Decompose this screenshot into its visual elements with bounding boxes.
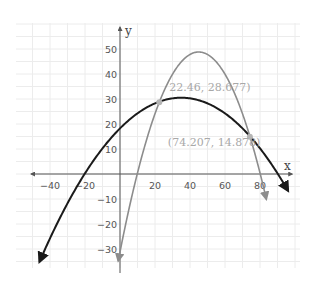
x-axis-label: x xyxy=(284,159,291,173)
y-tick-label: 40 xyxy=(105,69,117,80)
intersection-label: 22.46, 28.677) xyxy=(169,81,250,94)
y-tick-label: −10 xyxy=(97,194,117,205)
y-axis-label: y xyxy=(124,24,132,38)
y-tick-label: 10 xyxy=(105,144,117,155)
intersection-label: (74.207, 14.878) xyxy=(168,136,261,149)
y-tick-label: −30 xyxy=(97,244,117,255)
parabola-chart: −40−2020406080−30−20−101020304050 22.46,… xyxy=(0,0,317,289)
intersection-points: 22.46, 28.677)(74.207, 14.878) xyxy=(156,81,260,148)
x-tick-label: 20 xyxy=(149,180,161,191)
intersection-point xyxy=(156,99,162,105)
y-tick-label: 50 xyxy=(105,44,117,55)
x-tick-label: −40 xyxy=(40,180,60,191)
curves xyxy=(40,52,289,262)
y-tick-label: 20 xyxy=(105,119,117,130)
x-tick-label: 40 xyxy=(184,180,196,191)
y-tick-label: 30 xyxy=(105,94,117,105)
y-tick-label: −20 xyxy=(97,219,117,230)
x-tick-label: 60 xyxy=(219,180,231,191)
